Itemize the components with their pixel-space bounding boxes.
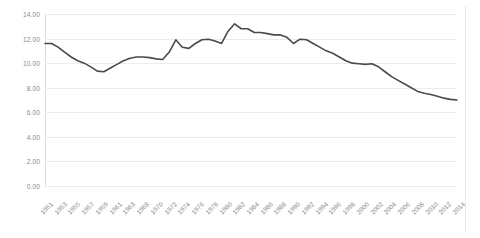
x-tick-label: 1955 bbox=[66, 200, 81, 215]
x-tick-label: 2012 bbox=[437, 200, 452, 215]
y-tick-label: 12.00 bbox=[23, 35, 40, 42]
y-tick-label: 8.00 bbox=[27, 84, 40, 91]
y-tick-label: 6.00 bbox=[27, 109, 40, 116]
x-tick-label: 1968 bbox=[135, 200, 150, 215]
x-tick-label: 2002 bbox=[369, 200, 384, 215]
x-tick-label: 1961 bbox=[108, 200, 123, 215]
plot-area: 14.0012.0010.008.006.004.002.000.00 bbox=[45, 14, 457, 186]
y-tick-label: 4.00 bbox=[27, 133, 40, 140]
x-tick-label: 1959 bbox=[94, 200, 109, 215]
x-tick-label: 2010 bbox=[423, 200, 438, 215]
x-tick-label: 1998 bbox=[341, 200, 356, 215]
x-tick-label: 1972 bbox=[163, 200, 178, 215]
x-tick-label: 1990 bbox=[286, 200, 301, 215]
x-tick-label: 2000 bbox=[355, 200, 370, 215]
gridline-0-00: 0.00 bbox=[45, 186, 457, 187]
x-tick-label: 1994 bbox=[314, 200, 329, 215]
x-tick-label: 1953 bbox=[53, 200, 68, 215]
x-tick-label: 2008 bbox=[410, 200, 425, 215]
x-tick-label: 2004 bbox=[382, 200, 397, 215]
x-tick-label: 1980 bbox=[217, 200, 232, 215]
x-tick-label: 1974 bbox=[176, 200, 191, 215]
x-tick-label: 1986 bbox=[259, 200, 274, 215]
x-tick-label: 1978 bbox=[204, 200, 219, 215]
x-tick-label: 2006 bbox=[396, 200, 411, 215]
line-chart: 14.0012.0010.008.006.004.002.000.00 1951… bbox=[0, 0, 480, 238]
x-tick-label: 1996 bbox=[327, 200, 342, 215]
x-tick-label: 1984 bbox=[245, 200, 260, 215]
y-tick-label: 2.00 bbox=[27, 158, 40, 165]
y-tick-label: 0.00 bbox=[27, 183, 40, 190]
x-tick-label: 1976 bbox=[190, 200, 205, 215]
series-line-group bbox=[45, 14, 457, 186]
x-tick-label: 1988 bbox=[272, 200, 287, 215]
x-axis-tick-labels: 1951195319551957195919611963196819701972… bbox=[45, 190, 457, 236]
y-tick-label: 10.00 bbox=[23, 60, 40, 67]
x-tick-label: 1992 bbox=[300, 200, 315, 215]
series-line-path bbox=[45, 24, 457, 100]
x-tick-label: 1957 bbox=[80, 200, 95, 215]
x-tick-label: 1970 bbox=[149, 200, 164, 215]
y-tick-label: 14.00 bbox=[23, 11, 40, 18]
x-tick-label: 1982 bbox=[231, 200, 246, 215]
x-tick-label: 1963 bbox=[121, 200, 136, 215]
